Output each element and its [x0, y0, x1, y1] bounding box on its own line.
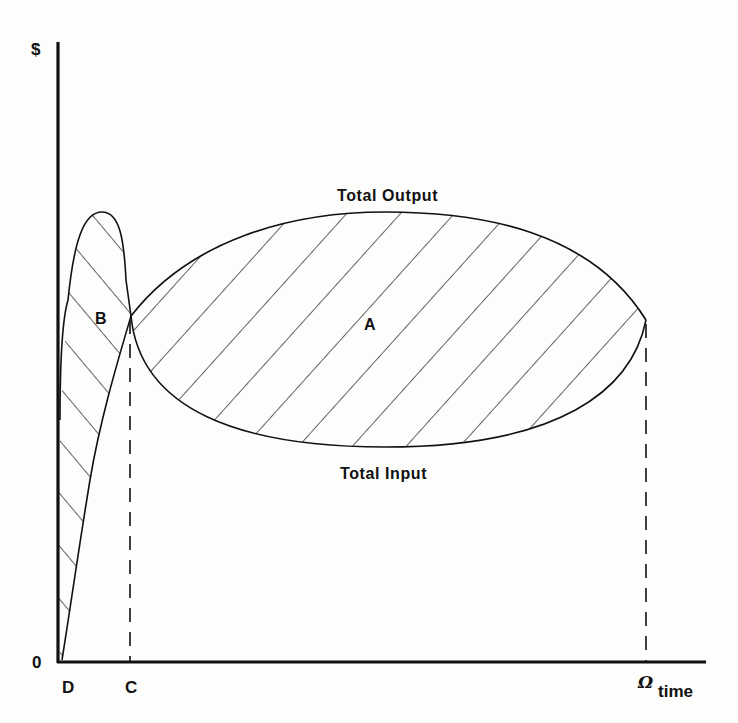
- x-axis-label: time: [658, 683, 693, 700]
- marker-omega-label: Ω: [638, 674, 653, 691]
- marker-d-label: D: [62, 679, 74, 696]
- total-output-label: Total Output: [337, 188, 438, 204]
- origin-label: 0: [32, 654, 41, 671]
- total-input-label: Total Input: [340, 466, 427, 482]
- y-axis-label: $: [31, 41, 40, 58]
- region-a-hatching: [120, 200, 660, 460]
- economic-diagram: [0, 0, 738, 723]
- region-a-label: A: [364, 317, 376, 333]
- region-b-label: B: [95, 311, 107, 327]
- marker-c-label: C: [125, 679, 137, 696]
